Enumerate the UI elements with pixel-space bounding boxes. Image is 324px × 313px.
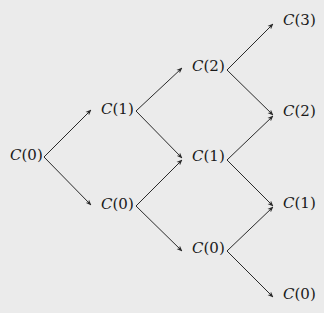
arrow-edge <box>136 206 182 251</box>
node-argument: (1) <box>203 147 224 165</box>
node-argument: (1) <box>112 100 133 118</box>
node-function-label: C <box>101 100 112 118</box>
node-function-label: C <box>283 11 294 29</box>
node-argument: (0) <box>294 285 315 303</box>
tree-node: C(0) <box>283 287 316 302</box>
node-argument: (0) <box>21 146 42 164</box>
node-function-label: C <box>283 102 294 120</box>
arrow-edge <box>227 251 273 297</box>
node-argument: (0) <box>203 239 224 257</box>
arrow-edge <box>136 111 182 158</box>
node-function-label: C <box>283 194 294 212</box>
node-argument: (2) <box>294 102 315 120</box>
node-function-label: C <box>192 57 203 75</box>
tree-node: C(0) <box>101 197 134 212</box>
arrow-edge <box>136 68 182 111</box>
node-argument: (1) <box>294 194 315 212</box>
node-argument: (2) <box>203 57 224 75</box>
binomial-tree-diagram: C(0)C(1)C(0)C(2)C(1)C(0)C(3)C(2)C(1)C(0) <box>0 0 324 313</box>
node-function-label: C <box>192 147 203 165</box>
tree-node: C(2) <box>192 59 225 74</box>
arrow-edge <box>44 110 91 157</box>
node-function-label: C <box>283 285 294 303</box>
arrow-edge <box>227 116 273 160</box>
tree-node: C(1) <box>283 196 316 211</box>
tree-node: C(2) <box>283 104 316 119</box>
arrow-edge <box>44 157 91 205</box>
arrow-edge <box>227 70 273 115</box>
tree-node: C(0) <box>10 148 43 163</box>
node-function-label: C <box>10 146 21 164</box>
tree-node: C(1) <box>101 102 134 117</box>
tree-node: C(0) <box>192 241 225 256</box>
tree-node: C(1) <box>192 149 225 164</box>
tree-edges <box>0 0 324 313</box>
node-function-label: C <box>101 195 112 213</box>
tree-node: C(3) <box>283 13 316 28</box>
arrow-edge <box>227 24 273 70</box>
arrow-edge <box>227 160 273 206</box>
node-function-label: C <box>192 239 203 257</box>
node-argument: (0) <box>112 195 133 213</box>
node-argument: (3) <box>294 11 315 29</box>
arrow-edge <box>136 160 182 206</box>
arrow-edge <box>227 207 273 251</box>
